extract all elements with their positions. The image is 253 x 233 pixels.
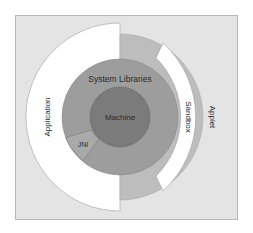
system-libraries-label: System Libraries bbox=[88, 74, 151, 84]
layer-diagram: System Libraries Machine JNI Application… bbox=[0, 0, 253, 233]
application-label: Application bbox=[43, 97, 52, 136]
sandbox-label: Sandbox bbox=[184, 101, 193, 133]
applet-label: Applet bbox=[208, 106, 217, 129]
machine-label: Machine bbox=[105, 113, 136, 122]
jni-label: JNI bbox=[78, 141, 89, 148]
